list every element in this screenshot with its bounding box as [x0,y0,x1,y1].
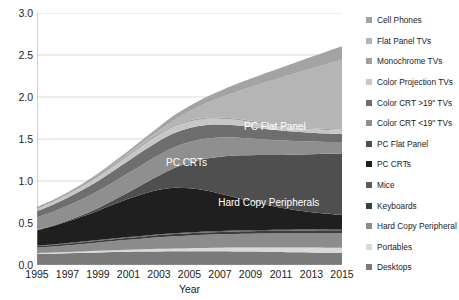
legend-swatch-icon [366,79,372,85]
legend-swatch-icon [366,141,372,147]
legend-item-label: Monochrome TVs [377,56,442,66]
x-tick-label: 2015 [322,268,362,280]
legend-swatch-icon [366,58,372,64]
legend-item[interactable]: Flat Panel TVs [366,31,459,52]
legend-item[interactable]: Cell Phones [366,10,459,31]
plot-area [37,13,342,265]
legend-item[interactable]: PC Flat Panel [366,134,459,155]
y-tick-label: 1.5 [7,134,33,144]
legend-item[interactable]: Desktops [366,257,459,278]
y-axis-tick-labels: 0.00.51.01.52.02.53.0 [0,0,33,300]
legend-swatch-icon [366,17,372,23]
legend-item-label: Color CRT <19" TVs [377,118,452,128]
legend-swatch-icon [366,203,372,209]
y-tick-label: 2.0 [7,92,33,102]
legend-swatch-icon [366,161,372,167]
legend-swatch-icon [366,223,372,229]
x-axis-title: Year [37,283,342,295]
legend-item[interactable]: Keyboards [366,195,459,216]
legend-item-label: Flat Panel TVs [377,36,431,46]
legend-item-label: Keyboards [377,201,417,211]
legend-item[interactable]: Color CRT <19" TVs [366,113,459,134]
legend-swatch-icon [366,100,372,106]
legend-swatch-icon [366,38,372,44]
legend-item-label: Desktops [377,262,412,272]
legend-item-label: PC Flat Panel [377,139,428,149]
legend-item-label: Hard Copy Peripheral [377,221,457,231]
chart-figure: Million metric tons 0.00.51.01.52.02.53.… [0,0,459,300]
legend-item[interactable]: Color CRT >19" TVs [366,92,459,113]
chart-legend: Cell PhonesFlat Panel TVsMonochrome TVsC… [366,10,459,282]
legend-swatch-icon [366,182,372,188]
legend-item-label: Color CRT >19" TVs [377,98,452,108]
legend-item[interactable]: Color Projection TVs [366,72,459,93]
legend-item-label: Cell Phones [377,15,422,25]
legend-item[interactable]: Mice [366,175,459,196]
x-axis-tick-labels: 1995199719992001200320052007200920112013… [37,268,342,282]
legend-item[interactable]: PC CRTs [366,154,459,175]
legend-item[interactable]: Monochrome TVs [366,51,459,72]
area-desktops [37,251,342,265]
y-tick-label: 2.5 [7,50,33,60]
y-tick-label: 1.0 [7,176,33,186]
legend-item-label: Color Projection TVs [377,77,453,87]
y-tick-label: 0.5 [7,218,33,228]
area-series-group [37,46,342,265]
legend-item-label: Portables [377,242,412,252]
legend-swatch-icon [366,264,372,270]
legend-swatch-icon [366,120,372,126]
legend-item[interactable]: Hard Copy Peripheral [366,216,459,237]
legend-item-label: Mice [377,180,395,190]
legend-item-label: PC CRTs [377,159,411,169]
legend-item[interactable]: Portables [366,237,459,258]
y-tick-label: 3.0 [7,8,33,18]
legend-swatch-icon [366,244,372,250]
stacked-area-svg [37,13,342,265]
